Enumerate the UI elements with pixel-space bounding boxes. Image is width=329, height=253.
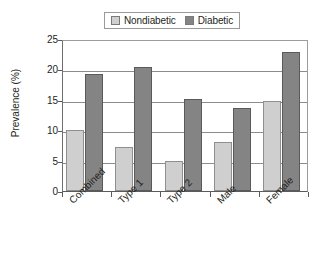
y-axis-title: Prevalence (%): [11, 38, 21, 168]
y-axis-tick-label: 0: [28, 187, 58, 197]
y-axis-tick-label: 15: [28, 96, 58, 106]
gridline: [63, 71, 307, 72]
legend-swatch-diabetic: [185, 16, 194, 25]
x-axis-tick-mark: [160, 192, 161, 197]
bar-diabetic-male: [233, 108, 251, 191]
x-axis-tick-mark: [62, 192, 63, 197]
legend-label-nondiabetic: Nondiabetic: [124, 16, 176, 26]
y-axis-tick-label: 10: [28, 126, 58, 136]
bar-diabetic-type-1: [134, 67, 152, 191]
bar-chart: Nondiabetic Diabetic Prevalence (%) 0510…: [0, 0, 329, 253]
y-axis-tick-label: 25: [28, 35, 58, 45]
chart-legend: Nondiabetic Diabetic: [104, 12, 240, 29]
y-axis-tick-label: 20: [28, 65, 58, 75]
x-axis-tick-mark: [111, 192, 112, 197]
x-axis-tick-mark: [210, 192, 211, 197]
legend-swatch-nondiabetic: [111, 16, 120, 25]
legend-item-diabetic: Diabetic: [185, 16, 233, 26]
bar-diabetic-female: [282, 52, 300, 191]
x-axis-tick-mark: [308, 192, 309, 197]
legend-label-diabetic: Diabetic: [198, 16, 233, 26]
y-axis-tick-label: 5: [28, 157, 58, 167]
legend-item-nondiabetic: Nondiabetic: [111, 16, 176, 26]
x-axis-tick-mark: [259, 192, 260, 197]
y-axis-tick-labels: 0510152025: [24, 40, 58, 192]
bar-nondiabetic-female: [263, 101, 281, 191]
